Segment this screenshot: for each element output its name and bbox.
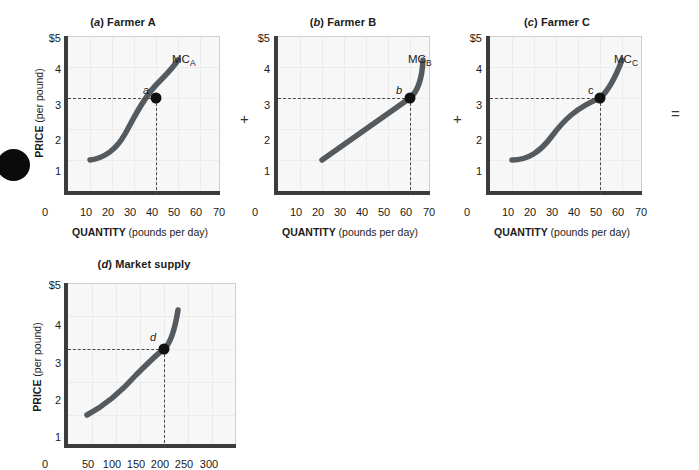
panel-c-xtick-50: 50 [590,206,602,218]
panel-b-title-text: Farmer B [327,16,376,28]
panel-b-ytick-2: 2 [240,134,270,146]
panel-a-mc-curve [68,36,224,195]
panel-a-xtick-40: 40 [146,206,158,218]
panel-b-xtick-10: 10 [290,206,302,218]
panel-c-xtick-0: 0 [464,206,470,218]
panel-b-xtick-40: 40 [356,206,368,218]
panel-a-series-label: MCA [172,53,196,68]
panel-c-quantity-guide [600,98,601,195]
panel-c-xaxis-title: QUANTITY (pounds per day) [472,226,652,238]
panel-d-xtick-150: 150 [127,458,145,470]
panel-d-yaxis-title-rest: (per pound) [31,322,43,376]
panel-a-xtick-50: 50 [168,206,180,218]
panel-d-plot-area [64,283,236,448]
panel-c-price-guide [490,98,600,99]
panel-b-xaxis-title: QUANTITY (pounds per day) [260,226,440,238]
panel-b-title: (b) Farmer B [228,16,458,28]
panel-b-xaxis-title-rest: (pounds per day) [339,226,418,238]
panel-a-xtick-70: 70 [213,206,225,218]
panel-market-supply: (d) Market supply $5 4 3 2 1 d 0 50 100 … [20,258,300,458]
panel-b-plot-area [274,36,430,195]
panel-a-xaxis-title-rest: (pounds per day) [129,226,208,238]
panel-a-quantity-guide [156,98,157,195]
panel-a-letter: a [94,16,100,28]
panel-d-yaxis-title: PRICE (per pound) [31,292,43,442]
panel-d-xtick-200: 200 [151,458,169,470]
panel-d-xtick-0: 0 [42,458,48,470]
panel-d-marker-label: d [150,331,156,343]
panel-b-price-guide [278,98,410,99]
panel-a-xtick-60: 60 [190,206,202,218]
panel-a-yaxis-title: PRICE (per pound) [33,38,45,188]
panel-a-marker-label: a [143,84,149,96]
panel-a-title: (a) Farmer A [8,16,238,28]
panel-c-xtick-20: 20 [524,206,536,218]
panel-c-ytick-2: 2 [452,134,482,146]
panel-c-marker-label: c [588,84,594,96]
panel-b-xaxis-title-bold: QUANTITY [282,226,336,238]
panel-c-series-name: MC [614,53,632,65]
panel-a-price-guide [68,98,156,99]
panel-b-series-label: MCB [408,53,432,68]
panel-c-title: (c) Farmer C [442,16,672,28]
panel-a-xaxis-title: QUANTITY (pounds per day) [50,226,230,238]
panel-a-yaxis-title-rest: (per pound) [33,68,45,122]
panel-b-xtick-20: 20 [312,206,324,218]
panel-b-xtick-30: 30 [334,206,346,218]
panel-a-title-text: Farmer A [107,16,156,28]
panel-d-price-guide [68,349,164,350]
panel-b-ytick-3: 3 [240,99,270,111]
panel-b-ytick-4: 4 [240,63,270,75]
panel-d-xtick-250: 250 [175,458,193,470]
panel-d-supply-curve [68,283,240,448]
panel-d-xtick-100: 100 [103,458,121,470]
panel-b-xtick-0: 0 [252,206,258,218]
panel-c-xaxis-title-bold: QUANTITY [494,226,548,238]
panel-c-xaxis-title-rest: (pounds per day) [551,226,630,238]
panel-b-letter: b [313,16,320,28]
panel-c-xtick-60: 60 [612,206,624,218]
panel-a-series-name: MC [172,53,190,65]
panel-b-ytick-5: $5 [240,32,270,44]
panel-c-xtick-40: 40 [568,206,580,218]
panel-a-series-sub: A [190,58,196,68]
panel-b-quantity-guide [410,98,411,195]
panel-d-xtick-50: 50 [82,458,94,470]
panel-b-series-name: MC [408,53,426,65]
panel-a-plot-area [64,36,220,195]
panel-c-series-sub: C [632,58,638,68]
panel-b-series-sub: B [426,58,432,68]
panel-farmer-b: (b) Farmer B $5 4 3 2 1 b MCB 0 10 20 30 [238,14,468,239]
panel-c-ytick-4: 4 [452,63,482,75]
panel-a-xtick-20: 20 [102,206,114,218]
panel-c-letter: c [528,16,534,28]
panel-b-ytick-1: 1 [240,165,270,177]
panel-d-ytick-5: $5 [26,279,61,291]
panel-a-xtick-0: 0 [42,206,48,218]
panel-d-xtick-300: 300 [200,458,218,470]
panel-a-xtick-30: 30 [124,206,136,218]
panel-b-marker-dot [405,93,416,104]
panel-d-title-text: Market supply [115,258,190,270]
panel-a-xtick-10: 10 [80,206,92,218]
panel-c-title-text: Farmer C [541,16,590,28]
panel-b-xtick-60: 60 [400,206,412,218]
panel-c-series-label: MCC [614,53,638,68]
panel-c-xtick-10: 10 [502,206,514,218]
panel-a-xaxis-title-bold: QUANTITY [72,226,126,238]
panel-c-ytick-5: $5 [452,32,482,44]
panel-d-letter: d [101,258,108,270]
panel-b-marker-label: b [396,84,402,96]
panel-c-ytick-1: 1 [452,165,482,177]
panel-b-xtick-70: 70 [423,206,435,218]
panel-farmer-a: (a) Farmer A $5 4 3 2 1 a MCA 0 10 [20,14,250,239]
panel-c-ytick-3: 3 [452,99,482,111]
panel-c-marker-dot [595,93,606,104]
panel-c-xtick-70: 70 [635,206,647,218]
panel-b-xtick-50: 50 [378,206,390,218]
panel-a-marker-dot [151,93,162,104]
panel-d-marker-dot [159,344,170,355]
panel-c-xtick-30: 30 [546,206,558,218]
panel-d-quantity-guide [164,349,165,448]
panel-d-yaxis-title-bold: PRICE [31,380,43,412]
